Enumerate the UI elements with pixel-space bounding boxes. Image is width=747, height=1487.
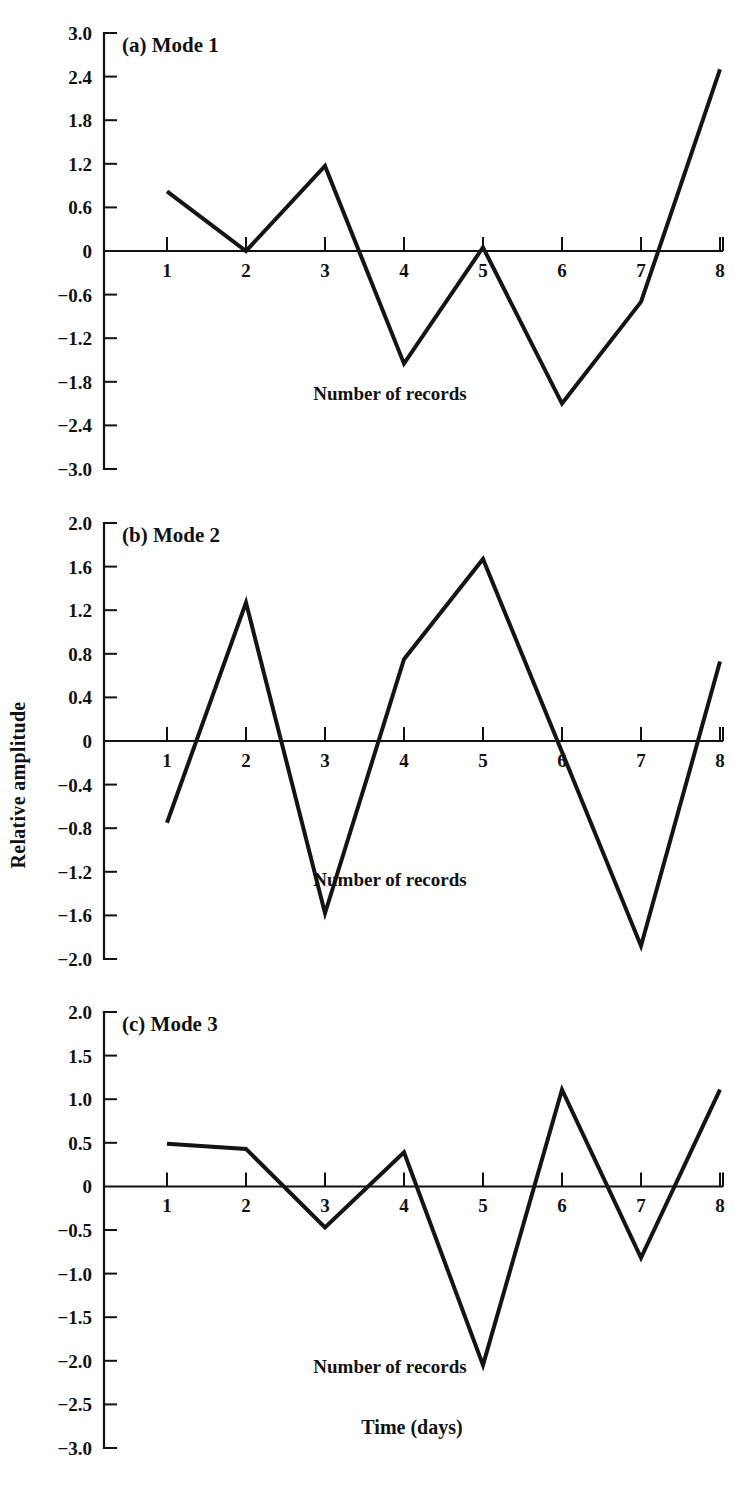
y-tick-label: −0.6	[57, 285, 92, 306]
y-axis-title: Relative amplitude	[7, 701, 30, 868]
y-tick-label: 1.5	[68, 1046, 92, 1067]
y-tick-label: −3.0	[57, 1438, 92, 1459]
inner-x-axis-label: Number of records	[313, 383, 466, 404]
y-tick-label: −1.2	[57, 328, 92, 349]
x-tick-label: 2	[241, 1195, 251, 1216]
x-tick-label: 3	[320, 750, 330, 771]
y-tick-label: 0.8	[68, 644, 92, 665]
y-tick-label: −2.0	[57, 949, 92, 970]
chart-svg-mode-b: 2.01.61.20.80.40−0.4−0.8−1.2−1.6−2.01234…	[0, 495, 747, 985]
y-tick-label: 1.0	[68, 1089, 92, 1110]
y-tick-label: 2.0	[68, 1002, 92, 1023]
x-tick-label: 8	[715, 750, 725, 771]
y-tick-label: 0.5	[68, 1133, 92, 1154]
panel-title: (c) Mode 3	[122, 1012, 218, 1036]
data-series-line	[167, 69, 720, 403]
y-tick-label: −0.5	[57, 1220, 92, 1241]
x-tick-label: 3	[320, 1195, 330, 1216]
y-tick-label: −3.0	[57, 459, 92, 480]
y-tick-label: 1.6	[68, 557, 92, 578]
chart-panel-mode-2: 2.01.61.20.80.40−0.4−0.8−1.2−1.6−2.01234…	[0, 495, 747, 985]
chart-svg-mode-c: 2.01.51.00.50−0.5−1.0−1.5−2.0−2.5−3.0123…	[0, 985, 747, 1487]
y-tick-label: −1.5	[57, 1307, 92, 1328]
inner-x-axis-label: Number of records	[313, 869, 466, 890]
x-tick-label: 5	[478, 750, 488, 771]
y-tick-label: 0.4	[68, 687, 92, 708]
x-tick-label: 5	[478, 260, 488, 281]
y-tick-label: −2.5	[57, 1394, 92, 1415]
y-tick-label: −0.4	[57, 775, 92, 796]
x-tick-label: 2	[241, 750, 251, 771]
x-tick-label: 7	[636, 260, 646, 281]
y-tick-label: 3.0	[68, 23, 92, 44]
x-tick-label: 6	[557, 260, 567, 281]
panel-title: (a) Mode 1	[122, 33, 219, 57]
y-tick-label: 2.0	[68, 513, 92, 534]
x-tick-label: 1	[162, 260, 172, 281]
x-tick-label: 4	[399, 1195, 409, 1216]
y-tick-label: 0.6	[68, 197, 92, 218]
x-tick-label: 3	[320, 260, 330, 281]
chart-panel-mode-3: 2.01.51.00.50−0.5−1.0−1.5−2.0−2.5−3.0123…	[0, 985, 747, 1487]
x-tick-label: 4	[399, 260, 409, 281]
data-series-line	[167, 1090, 720, 1366]
y-axis-title-wrap: Relative amplitude	[2, 620, 34, 950]
inner-x-axis-label: Number of records	[313, 1356, 466, 1377]
figure-container: 3.02.41.81.20.60−0.6−1.2−1.8−2.4−3.01234…	[0, 0, 747, 1487]
x-tick-label: 7	[636, 750, 646, 771]
chart-svg-mode-a: 3.02.41.81.20.60−0.6−1.2−1.8−2.4−3.01234…	[0, 0, 747, 495]
y-tick-label: 0	[83, 731, 93, 752]
y-tick-label: −2.4	[57, 415, 92, 436]
y-tick-label: 2.4	[68, 67, 92, 88]
y-tick-label: −1.2	[57, 862, 92, 883]
y-tick-label: 1.2	[68, 600, 92, 621]
y-tick-label: 0	[83, 1176, 93, 1197]
x-tick-label: 5	[478, 1195, 488, 1216]
y-tick-label: −0.8	[57, 818, 92, 839]
y-tick-label: 1.2	[68, 154, 92, 175]
x-tick-label: 1	[162, 750, 172, 771]
y-tick-label: 1.8	[68, 110, 92, 131]
x-axis-title: Time (days)	[361, 1416, 462, 1439]
x-tick-label: 1	[162, 1195, 172, 1216]
x-tick-label: 6	[557, 1195, 567, 1216]
x-tick-label: 8	[715, 1195, 725, 1216]
x-tick-label: 4	[399, 750, 409, 771]
x-tick-label: 8	[715, 260, 725, 281]
chart-panel-mode-1: 3.02.41.81.20.60−0.6−1.2−1.8−2.4−3.01234…	[0, 0, 747, 495]
y-tick-label: −1.6	[57, 905, 92, 926]
panel-title: (b) Mode 2	[122, 523, 220, 547]
y-tick-label: −2.0	[57, 1351, 92, 1372]
y-tick-label: 0	[83, 241, 93, 262]
y-tick-label: −1.8	[57, 372, 92, 393]
x-tick-label: 7	[636, 1195, 646, 1216]
y-tick-label: −1.0	[57, 1264, 92, 1285]
x-tick-label: 2	[241, 260, 251, 281]
